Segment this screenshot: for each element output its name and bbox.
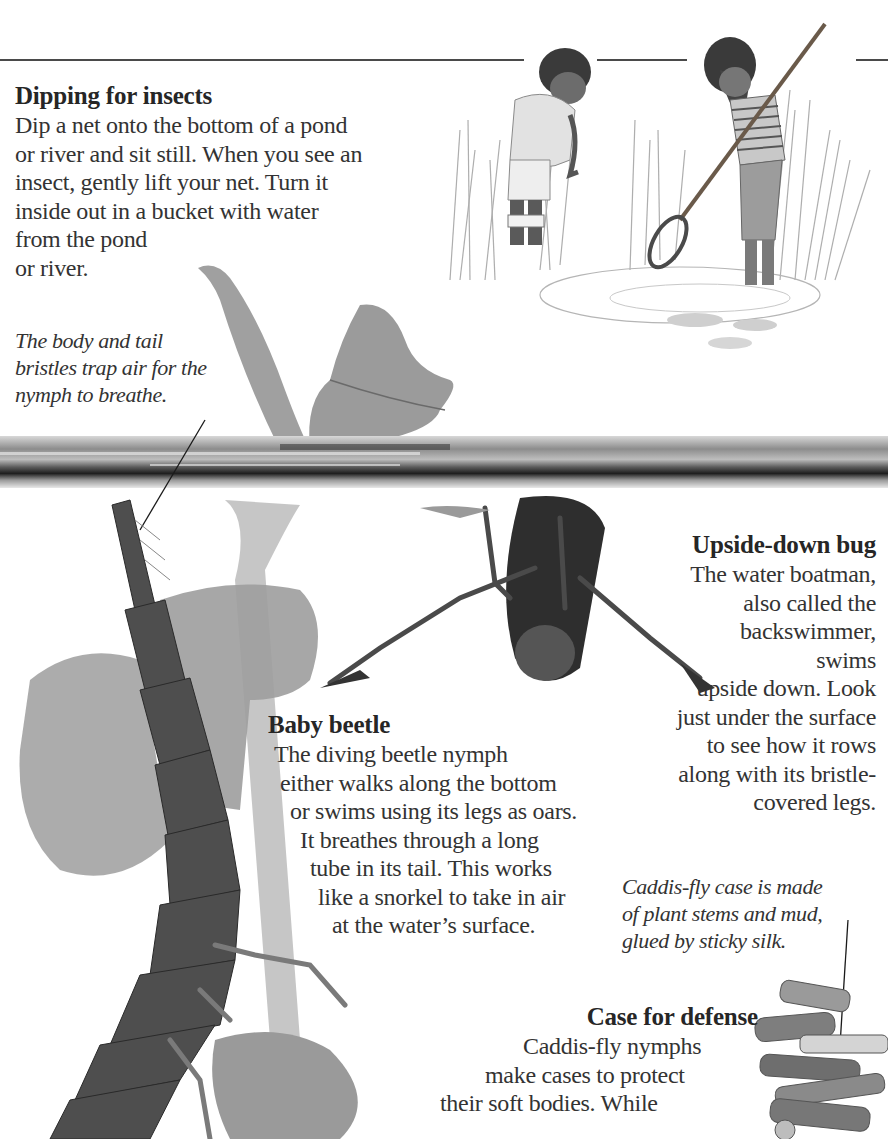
case-line: their soft bodies. While	[430, 1089, 760, 1118]
baby-beetle-section: Baby beetle The diving beetle nymph eith…	[268, 710, 608, 940]
caddis-caption-line: of plant stems and mud,	[622, 900, 888, 927]
case-for-defense-body: Caddis-fly nymphs make cases to protect …	[430, 1032, 760, 1118]
upside-down-bug-line: backswimmer,	[576, 617, 876, 646]
case-for-defense-section: Case for defense Caddis-fly nymphs make …	[430, 1002, 760, 1118]
upside-down-bug-heading: Upside-down bug	[576, 530, 876, 560]
upside-down-bug-line: to see how it rows	[576, 731, 876, 760]
upside-down-bug-line: covered legs.	[576, 788, 876, 817]
upside-down-bug-line: along with its bristle-	[576, 760, 876, 789]
case-line: Caddis-fly nymphs	[430, 1032, 760, 1061]
upside-down-bug-line: swims	[576, 646, 876, 675]
baby-beetle-line: It breathes through a long	[268, 826, 608, 855]
upside-down-bug-body: The water boatman, also called the backs…	[576, 560, 876, 817]
baby-beetle-line: The diving beetle nymph	[268, 740, 608, 769]
baby-beetle-body: The diving beetle nymph either walks alo…	[268, 740, 608, 940]
caddis-caption-line: Caddis-fly case is made	[622, 873, 888, 900]
baby-beetle-line: either walks along the bottom	[268, 769, 608, 798]
caddis-caption-line: glued by sticky silk.	[622, 927, 888, 954]
upside-down-bug-line: just under the surface	[576, 703, 876, 732]
baby-beetle-line: tube in its tail. This works	[268, 854, 608, 883]
upside-down-bug-line: also called the	[576, 589, 876, 618]
baby-beetle-line: like a snorkel to take in air	[268, 883, 608, 912]
upside-down-bug-section: Upside-down bug The water boatman, also …	[576, 530, 876, 817]
baby-beetle-line: at the water’s surface.	[268, 911, 608, 940]
upside-down-bug-line: upside down. Look	[576, 674, 876, 703]
case-for-defense-heading: Case for defense	[430, 1002, 760, 1032]
caddis-caption: Caddis-fly case is made of plant stems a…	[622, 873, 888, 954]
baby-beetle-heading: Baby beetle	[268, 710, 608, 740]
caddis-fly-case-illustration	[740, 975, 888, 1139]
case-line: make cases to protect	[430, 1061, 760, 1090]
baby-beetle-line: or swims using its legs as oars.	[268, 797, 608, 826]
upside-down-bug-line: The water boatman,	[576, 560, 876, 589]
